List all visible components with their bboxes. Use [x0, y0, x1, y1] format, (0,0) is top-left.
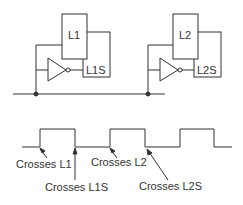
diagram: L1 L1S L2 L2S Crosses L1 Crosses L1S Cro…: [0, 0, 243, 205]
annotation-crosses-l2: Crosses L2: [91, 156, 147, 168]
junction-dot: [34, 92, 38, 96]
annotation-crosses-l2s: Crosses L2S: [139, 180, 202, 192]
junction-dot: [146, 92, 150, 96]
inverter-icon: [160, 58, 178, 81]
slave-label-l2s: L2S: [197, 64, 217, 76]
latch-label-l2: L2: [179, 29, 191, 41]
inverter-bubble-icon: [66, 68, 70, 72]
annotation-crosses-l1s: Crosses L1S: [45, 181, 108, 193]
stage-1: [34, 14, 110, 96]
clock-waveform: [22, 129, 232, 147]
latch-label-l1: L1: [68, 29, 80, 41]
inverter-icon: [48, 58, 66, 81]
annotation-crosses-l1: Crosses L1: [16, 158, 72, 170]
slave-label-l1s: L1S: [86, 64, 106, 76]
inverter-bubble-icon: [178, 68, 182, 72]
stage-2: [146, 14, 221, 96]
